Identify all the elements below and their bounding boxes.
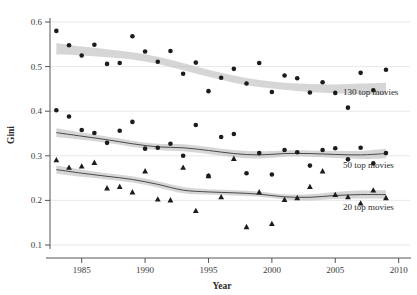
data-point xyxy=(232,132,237,137)
y-axis-title: Gini xyxy=(6,126,16,144)
y-tick-label: 0.6 xyxy=(31,17,43,27)
data-point xyxy=(105,62,110,67)
data-point xyxy=(232,67,237,72)
data-point xyxy=(180,165,186,170)
data-point xyxy=(155,145,160,150)
data-point xyxy=(143,146,148,151)
data-point xyxy=(117,129,122,134)
data-point xyxy=(384,67,389,72)
data-point xyxy=(244,81,249,86)
data-markers xyxy=(53,29,388,230)
data-point xyxy=(53,157,59,162)
y-axis: 0.10.20.30.40.50.6 xyxy=(31,17,50,250)
data-point xyxy=(117,61,122,66)
data-point xyxy=(155,196,161,201)
data-point xyxy=(384,151,389,156)
data-point xyxy=(257,61,262,66)
data-point xyxy=(269,221,275,226)
data-point xyxy=(346,105,351,110)
data-point xyxy=(308,90,313,95)
data-point xyxy=(79,128,84,133)
data-point xyxy=(320,168,326,173)
y-tick-label: 0.3 xyxy=(31,151,43,161)
chart-figure: 0.10.20.30.40.50.6 198519901995200020052… xyxy=(0,0,417,295)
data-point xyxy=(370,187,376,192)
data-point xyxy=(54,108,59,113)
data-point xyxy=(244,171,249,176)
y-tick-label: 0.4 xyxy=(31,106,43,116)
data-point xyxy=(320,80,325,85)
data-point xyxy=(181,71,186,76)
y-tick-label: 0.5 xyxy=(31,62,43,72)
data-point xyxy=(67,43,72,48)
data-point xyxy=(358,71,363,76)
data-point xyxy=(282,73,287,78)
data-point xyxy=(168,141,173,146)
x-tick-label: 2010 xyxy=(390,265,409,275)
data-point xyxy=(333,146,338,151)
data-point xyxy=(295,76,300,81)
data-point xyxy=(320,148,325,153)
series-label-0: 130 top movies xyxy=(343,87,399,97)
data-point xyxy=(54,29,59,34)
data-point xyxy=(270,90,275,95)
data-point xyxy=(193,208,199,213)
data-point xyxy=(117,184,123,189)
data-point xyxy=(194,123,199,128)
data-point xyxy=(130,34,135,39)
data-point xyxy=(105,141,110,146)
data-point xyxy=(79,53,84,58)
data-point xyxy=(194,60,199,65)
x-tick-label: 1990 xyxy=(136,265,155,275)
series-label-1: 50 top movies xyxy=(343,160,394,170)
data-point xyxy=(168,197,174,202)
confidence-band-0 xyxy=(56,43,386,95)
data-point xyxy=(295,150,300,155)
data-point xyxy=(155,59,160,64)
data-point xyxy=(358,145,363,150)
x-tick-label: 1995 xyxy=(199,265,218,275)
data-point xyxy=(333,91,338,96)
data-point xyxy=(130,120,135,125)
data-point xyxy=(282,148,287,153)
data-point xyxy=(168,49,173,54)
data-point xyxy=(219,75,224,80)
data-point xyxy=(104,185,110,190)
x-axis: 198519901995200020052010 xyxy=(46,258,411,275)
x-tick-label: 2000 xyxy=(263,265,282,275)
data-point xyxy=(91,160,97,165)
data-point xyxy=(181,154,186,159)
data-point xyxy=(142,168,148,173)
data-point xyxy=(79,163,85,168)
y-tick-label: 0.1 xyxy=(31,240,42,250)
data-point xyxy=(307,184,313,189)
data-point xyxy=(67,114,72,119)
x-tick-label: 1985 xyxy=(73,265,92,275)
data-point xyxy=(130,189,136,194)
y-tick-label: 0.2 xyxy=(31,195,42,205)
data-point xyxy=(270,172,275,177)
series-label-2: 20 top movies xyxy=(343,202,394,212)
data-point xyxy=(257,151,262,156)
x-axis-title: Year xyxy=(213,281,233,291)
data-point xyxy=(308,163,313,168)
data-point xyxy=(206,89,211,94)
x-tick-label: 2005 xyxy=(326,265,345,275)
data-point xyxy=(143,49,148,54)
data-point xyxy=(66,165,72,170)
data-point xyxy=(92,42,97,47)
data-point xyxy=(244,224,250,229)
data-point xyxy=(219,135,224,140)
gini-scatter-chart: 0.10.20.30.40.50.6 198519901995200020052… xyxy=(0,0,417,295)
data-point xyxy=(92,131,97,136)
